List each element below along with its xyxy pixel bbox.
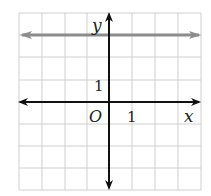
x-axis-label: x <box>184 106 194 126</box>
coordinate-plane: y x O 1 1 <box>0 0 211 196</box>
origin-label: O <box>89 107 102 126</box>
y-axis-label: y <box>91 15 102 35</box>
x-tick-label: 1 <box>127 108 137 126</box>
y-tick-label: 1 <box>94 77 104 95</box>
